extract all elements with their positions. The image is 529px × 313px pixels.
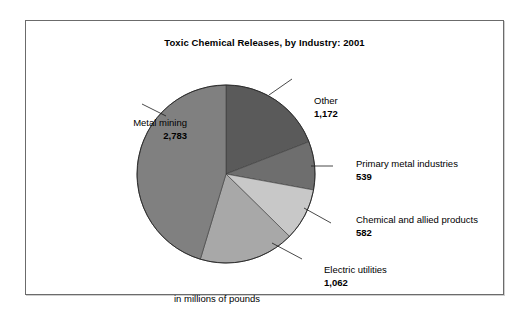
slice-label-metal-mining-name: Metal mining <box>72 117 187 130</box>
slice-label-metal-mining[interactable]: Metal mining 2,783 <box>72 117 187 142</box>
figure-page: Toxic Chemical Releases, by Industry: 20… <box>0 0 529 313</box>
leader-line-electric-utilities <box>272 243 302 259</box>
slice-label-other-value: 1,172 <box>314 108 338 121</box>
slice-label-electric-utilities-value: 1,062 <box>324 277 387 290</box>
slice-label-chemical-and-allied-products-value: 582 <box>356 227 478 240</box>
slice-label-chemical-and-allied-products[interactable]: Chemical and allied products 582 <box>356 214 478 239</box>
slice-label-other-name: Other <box>314 95 338 108</box>
slice-label-metal-mining-value: 2,783 <box>72 130 187 143</box>
slice-label-primary-metal-industries[interactable]: Primary metal industries 539 <box>356 158 458 183</box>
slice-label-electric-utilities-name: Electric utilities <box>324 264 387 277</box>
slice-label-chemical-and-allied-products-name: Chemical and allied products <box>356 214 478 227</box>
leader-line-chemical-and-allied-products <box>304 208 331 223</box>
figure-frame: Toxic Chemical Releases, by Industry: 20… <box>25 20 504 295</box>
slice-label-other[interactable]: Other 1,172 <box>314 95 338 120</box>
pie-slices <box>137 85 315 263</box>
chart-caption: in millions of pounds <box>174 293 260 304</box>
slice-label-electric-utilities[interactable]: Electric utilities 1,062 <box>324 264 387 289</box>
leader-line-other <box>269 79 292 95</box>
leader-line-metal-mining <box>142 104 166 116</box>
slice-label-primary-metal-industries-value: 539 <box>356 171 458 184</box>
slice-label-primary-metal-industries-name: Primary metal industries <box>356 158 458 171</box>
